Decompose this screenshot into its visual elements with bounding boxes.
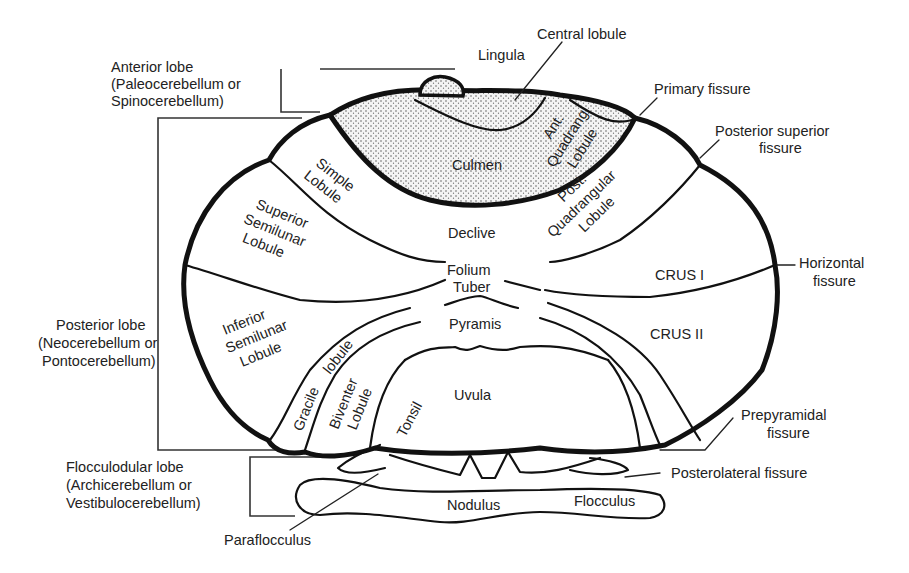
svg-text:fissure: fissure [759,140,802,156]
culmen-label: Culmen [452,157,502,173]
anterior-lobe-label: Anterior lobe (Paleocerebellum or Spinoc… [111,59,241,109]
cerebellum-diagram: Anterior lobe (Paleocerebellum or Spinoc… [0,0,909,573]
declive-label: Declive [448,225,496,241]
lingula-label: Lingula [478,47,526,63]
flocculonodular-lobe-bracket [250,457,322,516]
crus-1-label: CRUS I [655,267,704,283]
posterior-lobe-label: Posterior lobe (Neocerebellum or Pontoce… [38,317,157,369]
horizontal-fissure-label: Horizontal fissure [799,255,864,289]
central-lobule-label: Central lobule [537,26,626,42]
paraflocculus-right [570,458,628,474]
pyramis-label: Pyramis [449,316,501,332]
posterior-superior-fissure-leader [700,140,719,158]
prepyramidal-fissure-label: Prepyramidal fissure [741,407,826,441]
svg-text:Anterior lobe: Anterior lobe [111,59,193,75]
uvula-label: Uvula [454,387,492,403]
lingula-region [420,77,463,96]
folium-label: Folium [447,262,491,278]
paraflocculus-label: Paraflocculus [224,532,311,548]
primary-fissure-label: Primary fissure [654,81,751,97]
svg-text:Posterior superior: Posterior superior [715,123,830,139]
svg-text:fissure: fissure [813,273,856,289]
posterolateral-fissure-label: Posterolateral fissure [671,465,807,481]
svg-text:(Archicerebellum or: (Archicerebellum or [66,477,192,493]
svg-text:(Paleocerebellum or: (Paleocerebellum or [111,76,241,92]
svg-text:(Neocerebellum or: (Neocerebellum or [38,335,157,351]
crus-2-label: CRUS II [650,326,703,342]
svg-text:Horizontal: Horizontal [799,255,864,271]
svg-text:fissure: fissure [767,425,810,441]
svg-text:Vestibulocerebellum): Vestibulocerebellum) [66,495,201,511]
primary-fissure-leader [640,98,657,115]
svg-text:Posterior lobe: Posterior lobe [56,317,145,333]
svg-text:Spinocerebellum): Spinocerebellum) [111,93,224,109]
svg-text:Pontocerebellum): Pontocerebellum) [42,353,156,369]
svg-text:Flocculodular lobe: Flocculodular lobe [66,459,184,475]
flocculus-label: Flocculus [574,493,635,509]
flocculonodular-lobe-label: Flocculodular lobe (Archicerebellum or V… [66,459,201,511]
svg-text:Prepyramidal: Prepyramidal [741,407,826,423]
tuber-label: Tuber [453,279,491,295]
nodulus-label: Nodulus [447,497,500,513]
posterior-superior-fissure-label: Posterior superior fissure [715,123,830,156]
uvula-lower-edge [390,452,600,478]
posterolateral-fissure-leader [625,473,660,477]
